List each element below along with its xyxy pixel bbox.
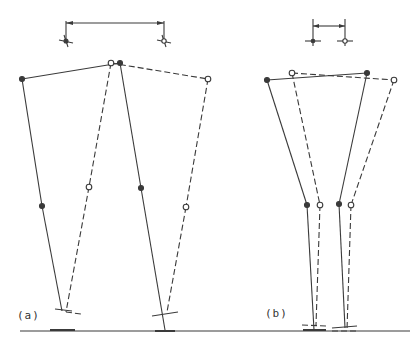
dimension-marker-a: [59, 21, 171, 47]
joint-open-icon: [317, 202, 323, 208]
panel-b-label: (b): [265, 307, 288, 320]
joint-solid-icon: [337, 202, 342, 207]
joint-solid-icon: [305, 203, 310, 208]
joint-open-icon: [348, 202, 354, 208]
centre-mark-open-icon: [337, 39, 353, 43]
stance-solid-a: [22, 63, 175, 331]
joint-open-icon: [289, 70, 295, 76]
centre-mark-solid-icon: [305, 39, 321, 43]
joint-solid-icon: [40, 204, 45, 209]
panel-a: [20, 21, 211, 331]
panel-a-label: (a): [17, 309, 40, 322]
gait-diagram: [0, 0, 412, 345]
joint-solid-icon: [118, 61, 123, 66]
dimension-marker-b: [305, 19, 353, 46]
joint-open-icon: [391, 77, 397, 83]
joint-solid-icon: [265, 78, 270, 83]
joint-solid-icon: [365, 71, 370, 76]
joint-open-icon: [183, 204, 189, 210]
joint-open-icon: [108, 60, 114, 66]
panel-b: [265, 19, 397, 331]
joint-solid-icon: [139, 186, 144, 191]
joint-open-icon: [205, 76, 211, 82]
joint-open-icon: [86, 184, 92, 190]
joint-solid-icon: [20, 77, 25, 82]
